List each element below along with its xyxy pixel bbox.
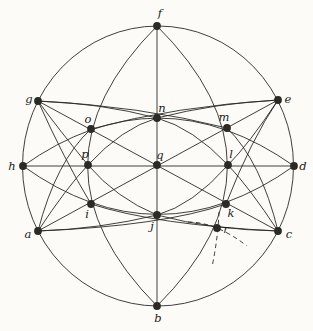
point-dot-q [153,161,161,169]
point-dot-h [19,162,27,170]
point-label-h: h [8,159,15,173]
figure-container: fgehdacbnompqlijkr [0,0,313,331]
point-label-k: k [228,206,235,220]
point-label-l: l [229,147,233,161]
point-label-a: a [25,227,32,241]
point-dot-r [213,224,221,232]
point-dot-d [290,162,298,170]
point-label-d: d [299,159,306,173]
point-dot-p [84,161,92,169]
point-label-p: p [81,147,89,161]
point-dot-b [153,302,161,310]
point-label-c: c [286,227,293,241]
point-dot-a [34,227,42,235]
point-dot-g [34,97,42,105]
point-label-m: m [219,110,230,124]
point-label-o: o [85,112,92,126]
point-dot-l [224,161,232,169]
point-dot-n [153,114,161,122]
point-dot-e [274,96,282,104]
point-label-e: e [285,92,292,106]
point-dot-o [87,125,95,133]
point-label-q: q [156,148,163,162]
point-dot-c [274,227,282,235]
point-dot-f [153,22,161,30]
point-label-g: g [25,92,32,106]
point-label-i: i [85,207,89,221]
point-label-n: n [158,101,165,115]
point-label-b: b [154,311,161,325]
point-dot-m [223,124,231,132]
geometry-diagram: fgehdacbnompqlijkr [0,0,313,331]
point-dot-j [153,211,161,219]
